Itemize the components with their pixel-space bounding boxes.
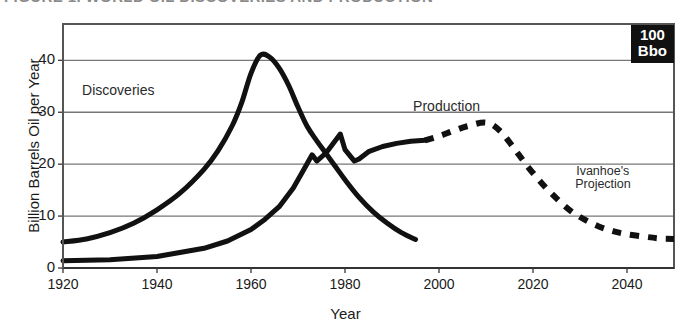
x-tick-label-1940: 1940: [127, 276, 187, 292]
y-tick-label-10: 10: [21, 206, 55, 223]
x-tick-label-2020: 2020: [503, 276, 563, 292]
annotation-production: Production: [413, 98, 480, 114]
annotation-ivanhoes: Ivanhoe's: [576, 164, 629, 178]
y-tick-label-40: 40: [21, 50, 55, 67]
x-tick-label-2000: 2000: [409, 276, 469, 292]
y-tick-label-20: 20: [21, 154, 55, 171]
badge-unit: Bbo: [638, 43, 667, 59]
y-tick-label-0: 0: [21, 258, 55, 275]
figure-root: FIGURE 1. WORLD OIL DISCOVERIES AND PROD…: [0, 0, 691, 335]
annotation-projection: Projection: [575, 177, 631, 191]
x-tick-label-1960: 1960: [221, 276, 281, 292]
y-tick-label-30: 30: [21, 102, 55, 119]
x-tick-label-1980: 1980: [315, 276, 375, 292]
scale-badge: 100 Bbo: [631, 25, 674, 63]
x-axis-title: Year: [0, 305, 691, 322]
x-tick-label-2040: 2040: [597, 276, 657, 292]
chart-area: Billion Barrels Oil per Year Year 010203…: [0, 0, 691, 335]
x-tick-label-1920: 1920: [33, 276, 93, 292]
badge-value: 100: [638, 27, 667, 43]
annotation-discoveries: Discoveries: [82, 82, 154, 98]
